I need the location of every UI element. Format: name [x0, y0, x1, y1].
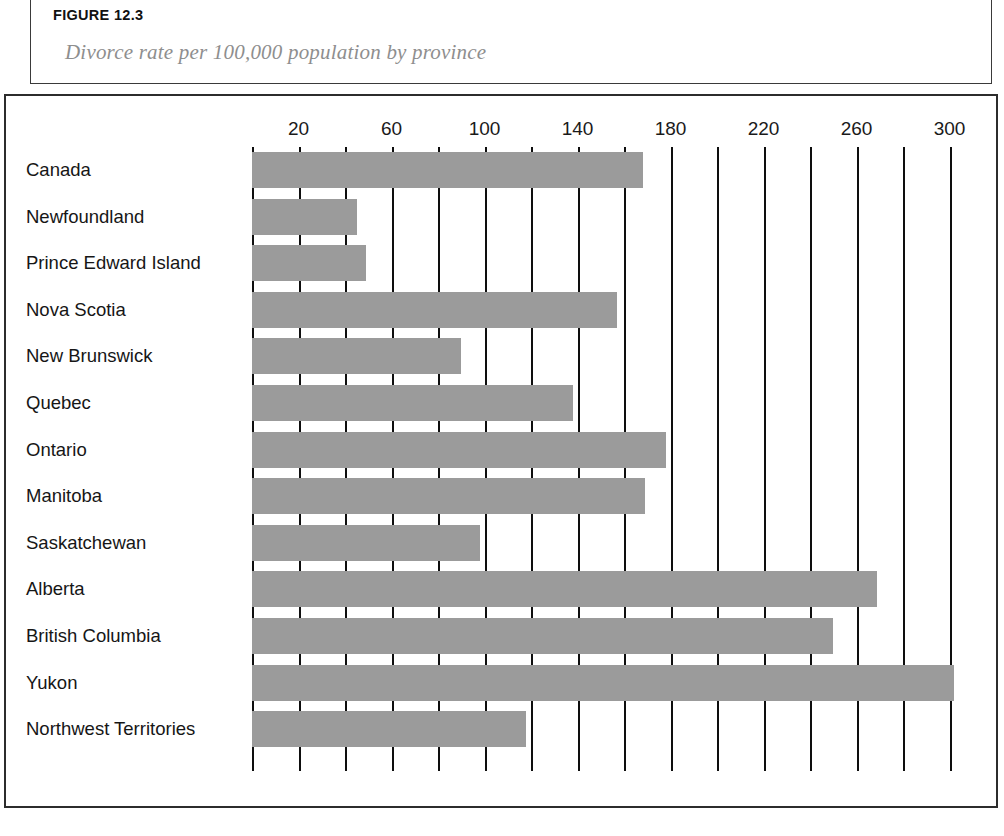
chart-row: Yukon	[6, 660, 996, 706]
chart-panel: 2060100140180220260300 CanadaNewfoundlan…	[4, 94, 998, 808]
category-label-canada: Canada	[26, 159, 232, 181]
chart-row: Manitoba	[6, 473, 996, 519]
bar-ontario	[252, 432, 666, 468]
category-label-new-brunswick: New Brunswick	[26, 345, 232, 367]
chart-row: New Brunswick	[6, 333, 996, 379]
bar-new-brunswick	[252, 338, 461, 374]
bar-british-columbia	[252, 618, 833, 654]
bar-prince-edward-island	[252, 245, 366, 281]
chart-row: Northwest Territories	[6, 706, 996, 752]
bar-saskatchewan	[252, 525, 480, 561]
bar-manitoba	[252, 478, 645, 514]
category-label-northwest-territories: Northwest Territories	[26, 718, 232, 740]
chart-row: British Columbia	[6, 613, 996, 659]
chart-plot-area: 2060100140180220260300 CanadaNewfoundlan…	[6, 96, 996, 806]
chart-row: Quebec	[6, 380, 996, 426]
chart-row: Ontario	[6, 427, 996, 473]
bar-alberta	[252, 571, 877, 607]
category-label-newfoundland: Newfoundland	[26, 206, 232, 228]
chart-row: Newfoundland	[6, 194, 996, 240]
chart-row: Nova Scotia	[6, 287, 996, 333]
category-label-ontario: Ontario	[26, 439, 232, 461]
chart-row: Alberta	[6, 566, 996, 612]
bar-nova-scotia	[252, 292, 617, 328]
category-label-prince-edward-island: Prince Edward Island	[26, 252, 232, 274]
figure-caption-box: FIGURE 12.3 Divorce rate per 100,000 pop…	[30, 0, 992, 84]
bar-yukon	[252, 665, 954, 701]
category-label-british-columbia: British Columbia	[26, 625, 232, 647]
bar-canada	[252, 152, 643, 188]
category-label-yukon: Yukon	[26, 672, 232, 694]
bar-quebec	[252, 385, 573, 421]
chart-row: Saskatchewan	[6, 520, 996, 566]
category-label-alberta: Alberta	[26, 578, 232, 600]
chart-row: Prince Edward Island	[6, 240, 996, 286]
category-label-nova-scotia: Nova Scotia	[26, 299, 232, 321]
bar-newfoundland	[252, 199, 357, 235]
category-label-manitoba: Manitoba	[26, 485, 232, 507]
category-label-saskatchewan: Saskatchewan	[26, 532, 232, 554]
chart-row: Canada	[6, 147, 996, 193]
category-label-quebec: Quebec	[26, 392, 232, 414]
figure-subtitle: Divorce rate per 100,000 population by p…	[65, 40, 486, 65]
chart-bars: CanadaNewfoundlandPrince Edward IslandNo…	[6, 96, 996, 806]
bar-northwest-territories	[252, 711, 526, 747]
figure-number: FIGURE 12.3	[53, 7, 143, 23]
